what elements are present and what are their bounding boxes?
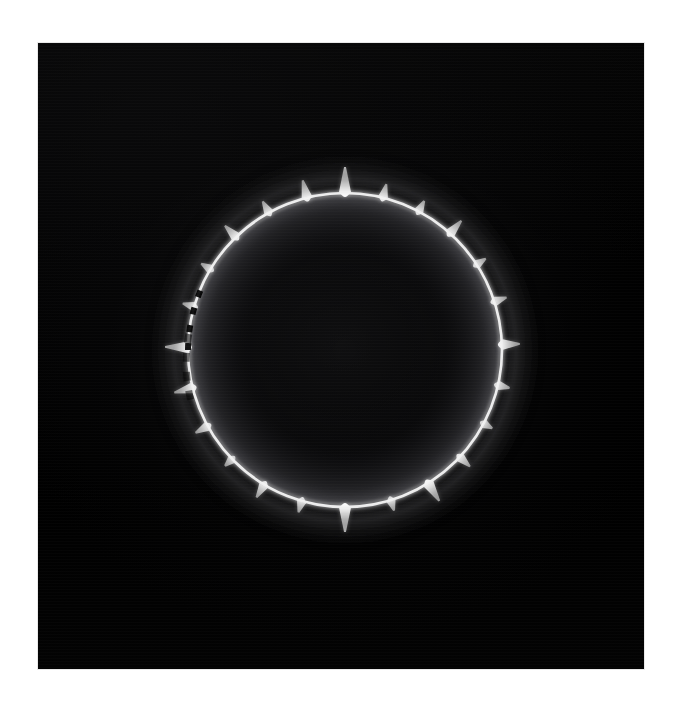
annular-ring-figure [38,43,644,669]
outer-halo [149,154,541,546]
photograph-page [0,0,680,701]
photographic-plate [38,43,644,669]
